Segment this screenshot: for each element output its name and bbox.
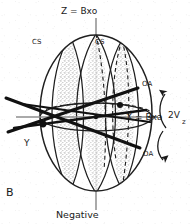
circular-section-left-label: CS: [32, 38, 42, 46]
figure-container: Z = Bxo X = Bxa Y OA OA CS CS 2V z B Neg…: [0, 0, 193, 224]
optic-axis-lower-label: OA: [143, 150, 153, 158]
z-axis-label: Z = Bxo: [61, 6, 98, 16]
y-axis-label: Y: [23, 138, 30, 148]
indicatrix-drawing: Z = Bxo X = Bxa Y OA OA CS CS 2V z B Neg…: [0, 0, 193, 224]
two-v-subscript: z: [182, 118, 186, 126]
two-v-label: 2V: [168, 110, 181, 120]
two-v-arrow: [158, 94, 166, 160]
figure-caption: Negative: [56, 209, 99, 220]
circular-section-right-label: CS: [95, 38, 105, 46]
panel-label: B: [6, 186, 14, 199]
optic-axis-upper-label: OA: [142, 80, 152, 88]
x-axis-label: X = Bxa: [126, 112, 162, 122]
